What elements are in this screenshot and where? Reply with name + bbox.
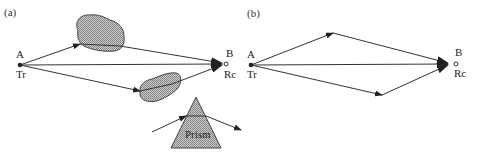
role-label-b-Rc: Rc	[454, 67, 466, 79]
lower-path-b-in	[251, 65, 382, 95]
point-label-b-A: A	[247, 48, 255, 60]
point-label-a-B: B	[226, 47, 233, 59]
lower-path-b-out	[382, 65, 448, 95]
panel-label-b: (b)	[247, 7, 260, 20]
point-label-a-A: A	[16, 48, 24, 60]
direct-path-b	[251, 64, 448, 65]
role-label-b-Tr: Tr	[247, 68, 257, 80]
point-label-b-B: B	[455, 46, 462, 58]
direct-path-a	[20, 64, 222, 65]
receiver-b	[454, 62, 458, 66]
upper-path-a-in	[20, 44, 80, 65]
upper-path-b-in	[251, 33, 333, 65]
lower-path-a-in	[20, 65, 140, 91]
lower-obstacle	[140, 73, 181, 102]
transmitter-b	[249, 63, 254, 68]
diagram-canvas: (a) A Tr B Rc Prism (b) A Tr B Rc	[0, 0, 479, 156]
receiver-a	[224, 62, 228, 66]
role-label-a-Tr: Tr	[16, 68, 26, 80]
prism	[171, 97, 221, 148]
transmitter-a	[18, 63, 23, 68]
upper-path-a-out	[120, 46, 222, 63]
panel-b	[249, 33, 458, 95]
prism-label: Prism	[185, 128, 211, 140]
panel-label-a: (a)	[4, 6, 17, 19]
role-label-a-Rc: Rc	[224, 68, 236, 80]
upper-path-b-out	[333, 33, 448, 63]
